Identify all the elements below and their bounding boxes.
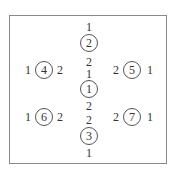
port-label: 2 <box>110 111 122 123</box>
node-5: 5 <box>123 61 141 79</box>
port-label: 1 <box>83 68 95 80</box>
node-4: 4 <box>35 61 53 79</box>
port-label: 2 <box>54 64 66 76</box>
node-3: 3 <box>80 127 98 145</box>
port-label: 1 <box>22 64 34 76</box>
node-1: 1 <box>80 80 98 98</box>
port-label: 1 <box>144 111 156 123</box>
port-label: 1 <box>83 21 95 33</box>
node-6: 6 <box>35 108 53 126</box>
port-label: 2 <box>83 114 95 126</box>
port-label: 1 <box>22 111 34 123</box>
port-label: 1 <box>144 64 156 76</box>
port-label: 2 <box>54 111 66 123</box>
port-label: 2 <box>110 64 122 76</box>
port-label: 1 <box>83 147 95 159</box>
port-label: 2 <box>83 100 95 112</box>
node-7: 7 <box>123 108 141 126</box>
node-2: 2 <box>80 34 98 52</box>
